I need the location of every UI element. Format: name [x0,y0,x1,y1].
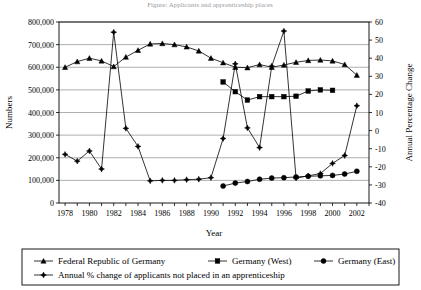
data-point [99,166,105,172]
data-point [147,178,153,184]
data-point [245,179,250,184]
data-point [318,88,323,93]
y-tick-label: 400,000 [28,109,54,118]
data-point [269,94,274,99]
data-point [87,56,92,61]
gridlines [59,22,369,180]
legend-label: Germany (East) [338,256,395,266]
data-point [257,62,262,67]
data-point [330,173,335,178]
x-tick-label: 1982 [106,209,122,218]
data-point [135,144,141,150]
data-point [233,181,238,186]
y-tick-label: 600,000 [28,63,54,72]
y-axis-title: Numbers [4,96,14,129]
y-tick-label: 200,000 [28,154,54,163]
y-tick-label: 500,000 [28,86,54,95]
y-tick-label: 100,000 [28,176,54,185]
y2-tick-label: 40 [375,54,383,63]
data-point [281,175,286,180]
x-tick-label: 1978 [57,209,73,218]
data-point [159,177,165,183]
data-point [221,80,226,85]
y2-tick-label: 10 [375,109,383,118]
data-point [257,94,262,99]
data-point [172,177,178,183]
x-tick-label: 1986 [154,209,170,218]
legend-item[interactable]: Germany (East) [314,256,395,266]
y2-tick-label: -10 [375,145,386,154]
y2-tick-label: 50 [375,36,383,45]
legend-marker [321,259,326,264]
y-tick-label: 0 [50,199,54,208]
secondary-y-axis-title: Annual Percentage Change [404,64,414,162]
data-point [282,94,287,99]
data-point [111,29,117,35]
x-tick-label: 1996 [276,209,292,218]
data-point [281,28,287,34]
legend-label: Annual % change of applicants not placed… [58,270,285,280]
data-point [184,177,190,183]
data-point [221,184,226,189]
y2-tick-label: 0 [375,127,379,136]
data-point [196,176,202,182]
y-tick-label: 800,000 [28,18,54,27]
chart-legend: Federal Republic of GermanyGermany (West… [22,249,399,285]
legend-marker [41,272,47,278]
data-point [294,94,299,99]
legend-item[interactable]: Germany (West) [208,256,292,266]
series-3 [221,169,360,189]
y2-tick-label: -40 [375,199,386,208]
legend-item[interactable]: Annual % change of applicants not placed… [34,270,285,280]
data-point [123,54,128,59]
chart-container: Figure: Applicants and apprenticeship pl… [0,0,421,290]
x-tick-label: 1998 [300,209,316,218]
secondary-y-axis-ticks: -40-30-20-100102030405060 [369,18,386,208]
line-chart: Figure: Applicants and apprenticeship pl… [0,0,421,290]
y2-tick-label: 20 [375,90,383,99]
x-tick-label: 1984 [130,209,146,218]
y2-tick-label: -30 [375,181,386,190]
legend-item[interactable]: Federal Republic of Germany [34,256,166,266]
data-point [306,89,311,94]
x-tick-label: 1988 [179,209,195,218]
data-point [257,177,262,182]
y-axis-ticks: 0100,000200,000300,000400,000500,000600,… [28,18,59,208]
x-axis-title: Year [206,228,223,238]
data-point [232,61,238,67]
legend-label: Federal Republic of Germany [58,256,166,266]
x-tick-label: 1980 [81,209,97,218]
y-tick-label: 700,000 [28,41,54,50]
data-point [330,88,335,93]
data-point [62,151,68,157]
x-tick-label: 2000 [325,209,341,218]
data-point [354,103,360,109]
legend-marker [215,259,220,264]
x-axis-ticks: 1978198019821984198619881990199219941996… [57,203,369,218]
data-point [208,175,214,181]
x-tick-label: 2002 [349,209,365,218]
legend-label: Germany (West) [232,256,292,266]
y2-tick-label: 60 [375,18,383,27]
data-point [123,125,129,131]
data-point [208,56,213,61]
y2-tick-label: 30 [375,72,383,81]
data-point [269,176,274,181]
data-point [342,172,347,177]
series-4 [62,28,360,184]
y-tick-label: 300,000 [28,131,54,140]
data-point [245,98,250,103]
data-point [220,136,226,142]
data-point [245,125,251,131]
data-point [221,60,226,65]
chart-title: Figure: Applicants and apprenticeship pl… [147,1,273,9]
data-point [257,145,263,151]
series-layer [62,28,360,188]
data-point [135,48,140,53]
x-tick-label: 1992 [227,209,243,218]
data-point [354,169,359,174]
x-tick-label: 1994 [252,209,268,218]
series-1 [62,41,359,77]
series-2 [221,80,335,103]
y2-tick-label: -20 [375,163,386,172]
